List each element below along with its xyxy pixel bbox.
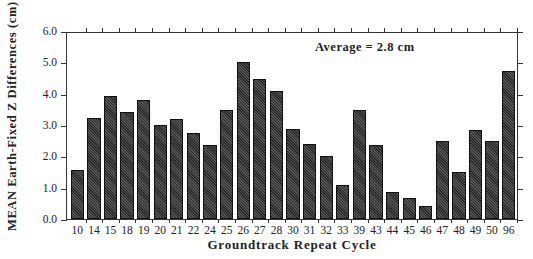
bar-15	[104, 96, 117, 219]
x-tick-top	[252, 28, 253, 33]
x-tick	[451, 219, 452, 223]
y-tick-label: 2.0	[27, 150, 57, 162]
x-tick-top	[500, 28, 501, 33]
y-tick	[61, 95, 67, 96]
bar-30	[286, 129, 299, 219]
y-tick-right	[517, 63, 523, 64]
y-tick-label: 6.0	[27, 25, 57, 37]
bar-19	[137, 100, 150, 219]
x-tick-top	[135, 28, 136, 33]
x-tick	[185, 219, 186, 223]
x-tick	[517, 219, 518, 223]
x-tick	[351, 219, 352, 223]
bar-25	[220, 110, 233, 219]
x-tick-top	[119, 28, 120, 33]
plot-area: Average = 2.8 cm 0.01.02.03.04.05.06.010…	[66, 32, 518, 220]
y-tick-label: 4.0	[27, 88, 57, 100]
bar-39	[353, 110, 366, 219]
bar-10	[71, 170, 84, 219]
x-tick-top	[334, 28, 335, 33]
x-tick-top	[484, 28, 485, 33]
x-tick-top	[102, 28, 103, 33]
x-tick-top	[185, 28, 186, 33]
y-tick	[61, 189, 67, 190]
bar-49	[469, 130, 482, 219]
x-tick	[169, 219, 170, 223]
x-tick	[318, 219, 319, 223]
y-tick	[61, 157, 67, 158]
x-tick	[218, 219, 219, 223]
x-tick-label: 96	[499, 224, 519, 236]
x-tick-top	[451, 28, 452, 33]
x-tick	[484, 219, 485, 223]
bar-31	[303, 144, 316, 219]
average-annotation: Average = 2.8 cm	[315, 40, 415, 55]
x-tick	[152, 219, 153, 223]
x-tick-top	[268, 28, 269, 33]
x-tick	[417, 219, 418, 223]
y-axis-label: MEAN Earth-Fixed Z Differences (cm)	[5, 21, 21, 231]
x-tick	[384, 219, 385, 223]
x-tick	[235, 219, 236, 223]
x-tick-top	[202, 28, 203, 33]
bar-24	[203, 145, 216, 219]
x-tick-top	[285, 28, 286, 33]
x-tick	[301, 219, 302, 223]
bar-32	[320, 156, 333, 219]
x-tick-top	[417, 28, 418, 33]
bar-96	[502, 71, 515, 219]
x-tick-top	[218, 28, 219, 33]
x-tick-top	[401, 28, 402, 33]
x-tick	[268, 219, 269, 223]
x-tick	[467, 219, 468, 223]
bar-46	[419, 206, 432, 219]
x-tick-top	[152, 28, 153, 33]
x-tick-top	[368, 28, 369, 33]
y-tick-label: 3.0	[27, 119, 57, 131]
x-tick-top	[169, 28, 170, 33]
bar-22	[187, 133, 200, 219]
y-tick-label: 1.0	[27, 182, 57, 194]
x-tick	[434, 219, 435, 223]
y-tick	[61, 126, 67, 127]
bar-28	[270, 91, 283, 219]
x-tick	[334, 219, 335, 223]
x-tick-top	[235, 28, 236, 33]
bar-50	[485, 141, 498, 219]
bar-48	[452, 172, 465, 219]
bar-45	[403, 198, 416, 219]
x-tick	[368, 219, 369, 223]
x-tick-top	[351, 28, 352, 33]
x-tick-top	[86, 28, 87, 33]
bar-20	[154, 125, 167, 219]
y-tick-label: 5.0	[27, 56, 57, 68]
y-tick-right	[517, 157, 523, 158]
x-axis-label: Groundtrack Repeat Cycle	[66, 237, 518, 253]
x-tick-top	[434, 28, 435, 33]
x-tick-top	[301, 28, 302, 33]
x-tick	[252, 219, 253, 223]
y-tick-right	[517, 95, 523, 96]
y-tick	[61, 220, 67, 221]
bar-43	[369, 145, 382, 219]
bar-18	[120, 112, 133, 219]
bar-47	[436, 141, 449, 219]
x-tick-top	[517, 28, 518, 33]
y-tick	[61, 32, 67, 33]
x-tick-top	[384, 28, 385, 33]
x-tick	[135, 219, 136, 223]
x-tick	[86, 219, 87, 223]
bar-44	[386, 192, 399, 219]
y-tick-label: 0.0	[27, 213, 57, 225]
y-tick-right	[517, 189, 523, 190]
x-tick	[285, 219, 286, 223]
x-tick-top	[467, 28, 468, 33]
bar-33	[336, 185, 349, 219]
y-tick	[61, 63, 67, 64]
x-tick	[102, 219, 103, 223]
x-tick	[401, 219, 402, 223]
x-tick	[500, 219, 501, 223]
x-tick-top	[318, 28, 319, 33]
bar-14	[87, 118, 100, 219]
bar-27	[253, 79, 266, 219]
